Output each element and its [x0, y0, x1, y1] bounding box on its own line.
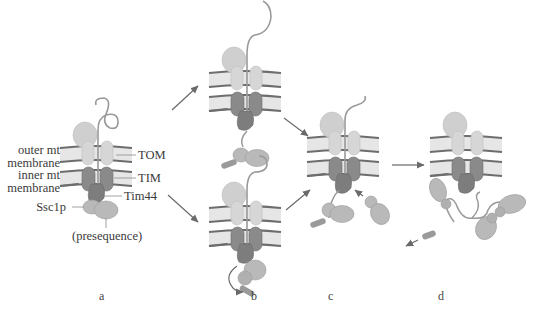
inner-membrane-label-line2: membrane — [2, 182, 60, 195]
panel-letter-d: d — [438, 289, 444, 304]
panel-letter-a: a — [99, 289, 104, 304]
panel-d — [406, 112, 528, 246]
panel-b-bottom — [209, 156, 281, 298]
panel-c — [307, 96, 393, 229]
tim44-label: Tim44 — [124, 190, 157, 203]
tom-label: TOM — [138, 149, 166, 162]
arrow-b-top-to-c — [284, 118, 308, 136]
tim-label: TIM — [138, 172, 161, 185]
ssc1p-label: Ssc1p — [2, 201, 66, 214]
arrow-b-bottom-to-c — [286, 190, 310, 210]
panel-b-top — [209, 1, 281, 170]
presequence-label: (presequence) — [72, 230, 142, 243]
inner-membrane-label: inner mt membrane — [2, 169, 60, 195]
protein-import-diagram — [0, 0, 550, 313]
outer-membrane-label: outer mt membrane — [2, 144, 60, 170]
panel-letter-c: c — [328, 289, 333, 304]
arrow-a-to-b-bottom — [168, 195, 198, 222]
panel-letter-b: b — [251, 289, 257, 304]
panel-a — [60, 98, 136, 228]
arrow-a-to-b-top — [172, 86, 198, 110]
